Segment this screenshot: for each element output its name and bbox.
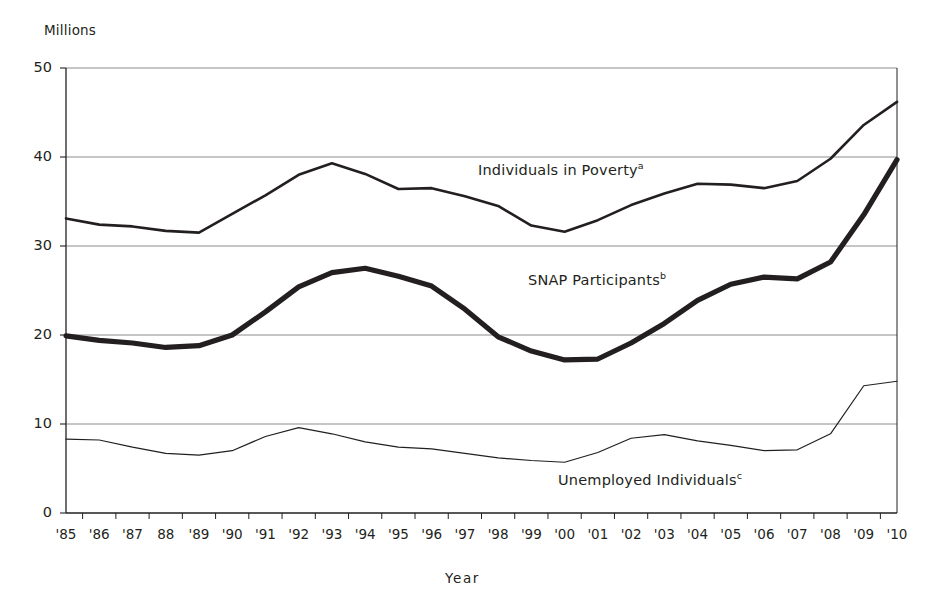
x-tick-label: '01 — [581, 526, 615, 542]
x-tick-label: '00 — [548, 526, 582, 542]
x-tick-label: '94 — [348, 526, 382, 542]
axis-lines — [66, 68, 897, 513]
series-label-unemployed-note: c — [737, 470, 742, 481]
y-tick-marks — [60, 68, 66, 513]
x-tick-label: '04 — [681, 526, 715, 542]
series-label-poverty-text: Individuals in Poverty — [478, 162, 638, 178]
gridlines — [66, 68, 897, 424]
x-tick-label: '96 — [415, 526, 449, 542]
chart-figure: Millions Individuals in Povertya SNAP Pa… — [0, 0, 925, 615]
x-tick-label: '99 — [514, 526, 548, 542]
y-tick-label: 30 — [18, 237, 52, 253]
x-tick-label: '87 — [115, 526, 149, 542]
y-tick-label: 40 — [18, 148, 52, 164]
series-line-snap-participants — [66, 160, 897, 360]
x-tick-label: '09 — [847, 526, 881, 542]
x-tick-label: '85 — [49, 526, 83, 542]
series-label-unemployed: Unemployed Individualsc — [558, 472, 742, 488]
series-label-poverty: Individuals in Povertya — [478, 162, 644, 178]
x-tick-label: '91 — [248, 526, 282, 542]
x-tick-marks — [83, 513, 881, 519]
series-line-unemployed-individuals — [66, 381, 897, 462]
x-tick-label: 88 — [149, 526, 183, 542]
series-label-poverty-note: a — [638, 160, 644, 171]
x-axis-title: Year — [0, 570, 925, 586]
x-tick-label: '10 — [880, 526, 914, 542]
x-tick-label: '92 — [282, 526, 316, 542]
x-tick-label: '98 — [481, 526, 515, 542]
chart-plot-area — [0, 0, 925, 615]
series-label-snap: SNAP Participantsb — [528, 272, 666, 288]
x-tick-label: '06 — [747, 526, 781, 542]
y-tick-label: 0 — [18, 504, 52, 520]
x-tick-label: '90 — [215, 526, 249, 542]
x-tick-label: '08 — [814, 526, 848, 542]
x-tick-label: '89 — [182, 526, 216, 542]
series-group — [66, 102, 897, 462]
x-tick-label: '05 — [714, 526, 748, 542]
y-tick-label: 10 — [18, 415, 52, 431]
x-tick-label: '97 — [448, 526, 482, 542]
y-tick-label: 50 — [18, 59, 52, 75]
x-tick-label: '02 — [614, 526, 648, 542]
x-tick-label: '03 — [647, 526, 681, 542]
y-tick-label: 20 — [18, 326, 52, 342]
x-tick-label: '93 — [315, 526, 349, 542]
series-label-snap-text: SNAP Participants — [528, 272, 660, 288]
series-label-unemployed-text: Unemployed Individuals — [558, 472, 737, 488]
series-label-snap-note: b — [660, 270, 666, 281]
x-tick-label: '07 — [780, 526, 814, 542]
x-tick-label: '95 — [381, 526, 415, 542]
x-tick-label: '86 — [82, 526, 116, 542]
